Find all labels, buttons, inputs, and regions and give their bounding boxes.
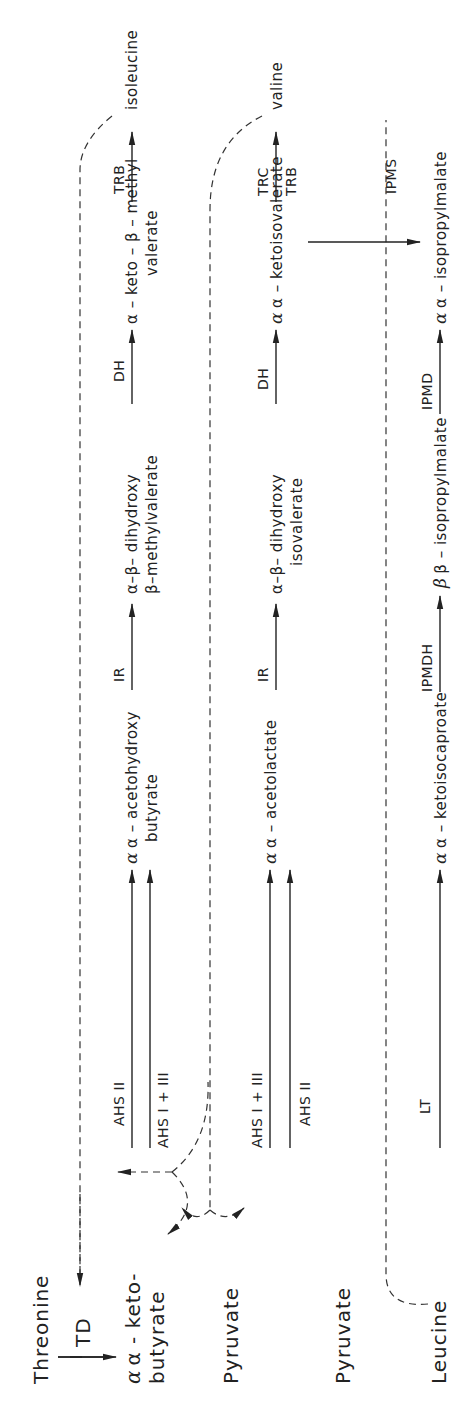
lt-label: LT <box>417 1099 433 1114</box>
beta-isopropylmalate-label: ββ – isopropylmalate <box>430 417 450 589</box>
trc-row2-label: TRC <box>255 167 271 197</box>
pyruvate-b-curve <box>172 1082 208 1172</box>
ir-row1-label: IR <box>111 667 127 682</box>
ketobutyrate-label-2: butyrate <box>145 1290 169 1384</box>
acetohydroxybutyrate-label-2: butyrate <box>143 774 161 842</box>
dh-row1-label: DH <box>111 360 127 382</box>
acetohydroxybutyrate-label-1: αα – acetohydroxy <box>121 711 141 864</box>
ir-row2-label: IR <box>255 667 271 682</box>
ketoisocaproate-label: αα – ketoisocaproate <box>430 692 450 864</box>
ahs13-row2-label: AHS I + III <box>249 1072 265 1148</box>
dihydroxy-isovalerate-label-1: α–β– dihydroxy <box>268 474 286 594</box>
ahs2-row1-label: AHS II <box>111 1081 127 1126</box>
ipmd-label: IPMD <box>419 373 435 410</box>
ahs13-row1-label: AHS I + III <box>155 1072 171 1148</box>
dihydroxy-methylvalerate-label-2: β–methylvalerate <box>143 455 161 594</box>
threonine-label: Threonine <box>29 1275 53 1385</box>
dihydroxy-isovalerate-label-2: isovalerate <box>288 477 306 566</box>
pathway-diagram-svg: Threonine TD αα - keto- butyrate Pyruvat… <box>0 0 458 1404</box>
ketobutyrate-label-1: αα - keto- <box>121 1273 145 1384</box>
isoleucine-label: isoleucine <box>123 30 141 110</box>
ahs2-row2-label: AHS II <box>297 1081 313 1126</box>
dihydroxy-methylvalerate-label-1: α–β– dihydroxy <box>123 474 141 594</box>
ipmdh-label: IPMDH <box>419 644 435 692</box>
valine-label: valine <box>268 62 286 110</box>
alpha-isopropylmalate-label: αα – isopropylmalate <box>430 151 450 324</box>
keto-methylvalerate-label-2: valerate <box>143 210 161 276</box>
dh-row2-label: DH <box>255 368 271 390</box>
valine-feedback-line <box>210 116 262 1210</box>
pyruvate-b-label: Pyruvate <box>331 1287 355 1384</box>
td-label: TD <box>71 1317 95 1348</box>
pyruvate-to-ketobutyrate-arrow <box>168 1172 188 1234</box>
pathway-diagram: Threonine TD αα - keto- butyrate Pyruvat… <box>0 0 458 1404</box>
trb-row2-label: TRB <box>283 167 299 197</box>
isoleucine-feedback-line <box>80 116 112 1280</box>
ipms-label: IPMS <box>383 158 399 194</box>
acetolactate-label: αα – acetolactate <box>260 720 280 864</box>
valine-to-ahs-row2-arrow <box>210 1208 244 1217</box>
leucine-label: Leucine <box>427 1300 451 1384</box>
leucine-feedback-line <box>386 120 428 1304</box>
pyruvate-a-label: Pyruvate <box>219 1287 243 1384</box>
trb-row1-label: TRB <box>111 165 127 195</box>
